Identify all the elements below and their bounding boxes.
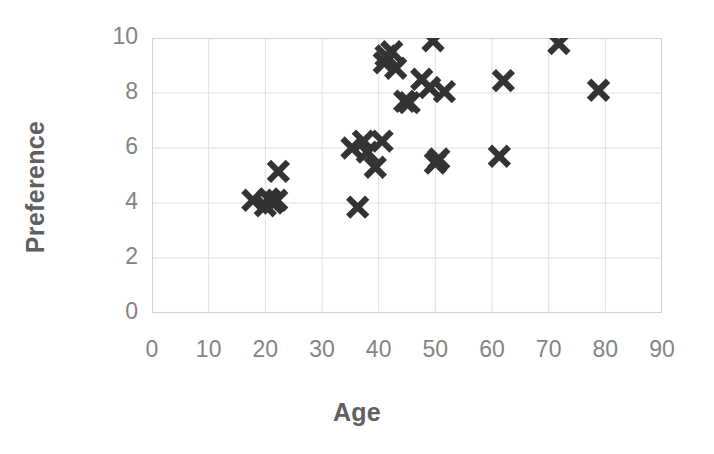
- plot-border: [153, 39, 662, 313]
- plot-canvas: [152, 38, 662, 313]
- y-tick-label: 4: [78, 188, 138, 215]
- data-markers: [243, 38, 608, 217]
- y-tick-label: 0: [78, 298, 138, 325]
- x-tick-label: 30: [292, 336, 352, 363]
- x-tick-label: 20: [235, 336, 295, 363]
- x-tick-label: 90: [632, 336, 692, 363]
- data-point-marker: [348, 198, 367, 217]
- x-tick-label: 50: [405, 336, 465, 363]
- data-point-marker: [424, 38, 443, 50]
- x-axis-title: Age: [0, 398, 714, 427]
- x-tick-label: 10: [179, 336, 239, 363]
- y-tick-label: 10: [78, 23, 138, 50]
- data-point-marker: [494, 71, 513, 90]
- x-tick-label: 80: [575, 336, 635, 363]
- y-axis-title: Preference: [21, 121, 50, 253]
- data-point-marker: [490, 147, 509, 166]
- x-tick-label: 0: [122, 336, 182, 363]
- y-tick-label: 8: [78, 78, 138, 105]
- x-tick-label: 70: [519, 336, 579, 363]
- gridlines: [152, 38, 662, 313]
- y-axis-title-container: Preference: [21, 47, 51, 327]
- scatter-chart: Preference Age 0246810 01020304050607080…: [0, 0, 714, 454]
- y-tick-label: 2: [78, 243, 138, 270]
- data-point-marker: [549, 38, 568, 53]
- plot-area: [152, 38, 662, 313]
- data-point-marker: [269, 162, 288, 181]
- y-tick-label: 6: [78, 133, 138, 160]
- x-tick-label: 40: [349, 336, 409, 363]
- x-tick-label: 60: [462, 336, 522, 363]
